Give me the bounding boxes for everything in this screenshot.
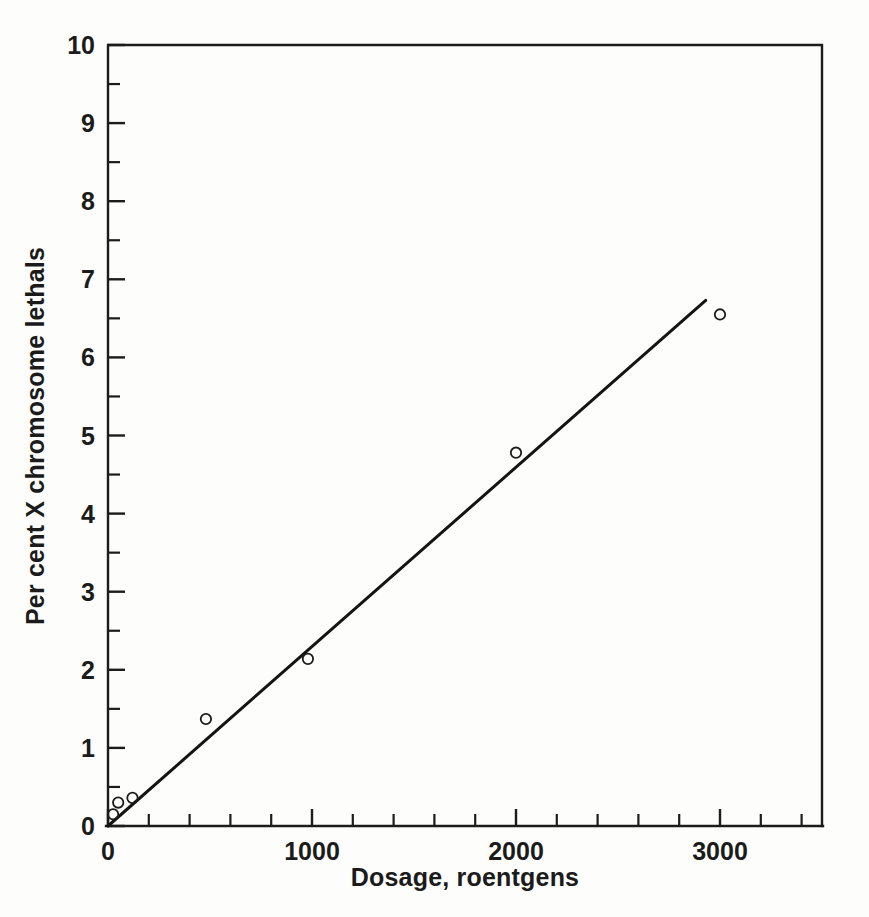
y-tick-label: 5 (81, 422, 95, 450)
x-axis-ticks (108, 809, 802, 826)
y-axis-tick-labels: 012345678910 (67, 31, 95, 840)
y-tick-label: 1 (81, 734, 95, 762)
y-axis-title: Per cent X chromosome lethals (21, 247, 49, 625)
data-point-marker (108, 809, 118, 819)
y-tick-label: 6 (81, 343, 95, 371)
data-point-marker (715, 309, 725, 319)
y-tick-label: 8 (81, 187, 95, 215)
data-point-marker (127, 793, 137, 803)
figure-page: 012345678910 0100020003000 Dosage, roent… (0, 0, 869, 917)
x-tick-label: 1000 (284, 837, 340, 865)
y-tick-label: 3 (81, 578, 95, 606)
y-tick-label: 2 (81, 656, 95, 684)
data-point-marker (113, 797, 123, 807)
y-axis-ticks (108, 45, 125, 826)
data-point-marker (201, 714, 211, 724)
x-tick-label: 2000 (488, 837, 544, 865)
x-tick-label: 3000 (692, 837, 748, 865)
x-tick-label: 0 (101, 837, 115, 865)
y-tick-label: 10 (67, 31, 95, 59)
chart-figure: 012345678910 0100020003000 Dosage, roent… (0, 0, 869, 917)
y-tick-label: 9 (81, 109, 95, 137)
fit-line (108, 300, 706, 826)
chart-svg: 012345678910 0100020003000 Dosage, roent… (0, 0, 869, 917)
y-tick-label: 7 (81, 265, 95, 293)
x-axis-title: Dosage, roentgens (351, 863, 579, 891)
data-point-marker (511, 447, 521, 457)
plot-frame (108, 45, 822, 826)
x-axis-tick-labels: 0100020003000 (101, 837, 748, 865)
y-tick-label: 4 (81, 500, 95, 528)
y-tick-label: 0 (81, 812, 95, 840)
data-point-marker (303, 654, 313, 664)
